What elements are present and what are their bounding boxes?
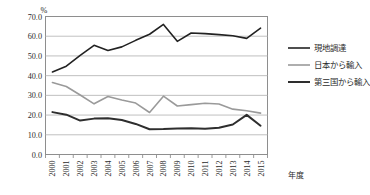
x-axis-ticks <box>46 155 268 159</box>
line-chart: % 0.010.020.030.040.050.060.070.0 200020… <box>0 0 370 195</box>
plot-area-border <box>46 17 268 155</box>
x-tick-label: 2013 <box>229 161 238 177</box>
x-tick-label: 2000 <box>48 161 57 177</box>
series-line-1 <box>52 24 260 72</box>
y-axis-tick-labels: 0.010.020.030.040.050.060.070.0 <box>28 13 42 160</box>
chart-legend: 現地調達日本から輸入第三国から輸入 <box>288 43 370 87</box>
x-tick-label: 2005 <box>118 161 127 177</box>
legend-label-3: 第三国から輸入 <box>314 77 370 87</box>
x-axis-tick-labels: 2000200120022003200420052006200720082009… <box>48 161 265 177</box>
y-tick-label: 10.0 <box>28 131 42 140</box>
x-tick-label: 2002 <box>76 161 85 177</box>
x-tick-label: 2014 <box>243 161 252 177</box>
x-tick-label: 2008 <box>159 161 168 177</box>
series-line-2 <box>52 83 260 114</box>
legend-label-1: 現地調達 <box>314 43 347 53</box>
y-tick-label: 20.0 <box>28 111 42 120</box>
y-tick-label: 50.0 <box>28 52 42 61</box>
x-tick-label: 2007 <box>146 161 155 177</box>
x-tick-label: 2012 <box>215 161 224 177</box>
y-tick-label: 40.0 <box>28 72 42 81</box>
data-series-group <box>52 24 260 129</box>
x-axis-title: 年度 <box>288 170 304 180</box>
x-tick-label: 2001 <box>62 161 71 177</box>
x-tick-label: 2006 <box>132 161 141 177</box>
x-tick-label: 2004 <box>104 161 113 177</box>
x-tick-label: 2003 <box>90 161 99 177</box>
legend-label-2: 日本から輸入 <box>314 60 363 70</box>
x-tick-label: 2011 <box>201 161 210 177</box>
y-tick-label: 70.0 <box>28 13 42 22</box>
chart-canvas: % 0.010.020.030.040.050.060.070.0 200020… <box>0 0 370 195</box>
y-tick-label: 30.0 <box>28 91 42 100</box>
x-tick-label: 2009 <box>173 161 182 177</box>
x-tick-label: 2015 <box>257 161 266 177</box>
x-tick-label: 2010 <box>187 161 196 177</box>
y-tick-label: 60.0 <box>28 32 42 41</box>
y-tick-label: 0.0 <box>32 151 42 160</box>
